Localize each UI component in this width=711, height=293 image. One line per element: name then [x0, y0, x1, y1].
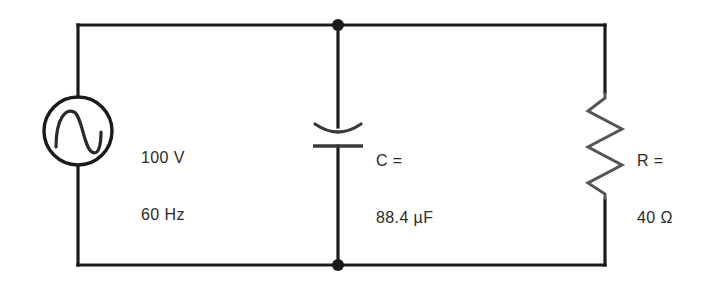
junction-dot-bottom — [332, 259, 344, 271]
circuit-schematic-svg — [0, 0, 711, 293]
resistor-zigzag — [588, 92, 622, 200]
capacitor-value-text: 88.4 µF — [376, 208, 433, 227]
source-label: 100 V 60 Hz — [141, 110, 185, 262]
resistor-value-text: 40 Ω — [637, 208, 673, 227]
circuit-diagram: 100 V 60 Hz C = 88.4 µF R = 40 Ω — [0, 0, 711, 293]
capacitor-label: C = 88.4 µF — [376, 113, 433, 265]
junction-dot-top — [332, 19, 344, 31]
resistor-label: R = 40 Ω — [637, 113, 673, 265]
source-voltage-text: 100 V — [141, 148, 185, 167]
source-frequency-text: 60 Hz — [141, 205, 185, 224]
resistor-designator-text: R = — [637, 151, 673, 170]
capacitor-designator-text: C = — [376, 151, 433, 170]
